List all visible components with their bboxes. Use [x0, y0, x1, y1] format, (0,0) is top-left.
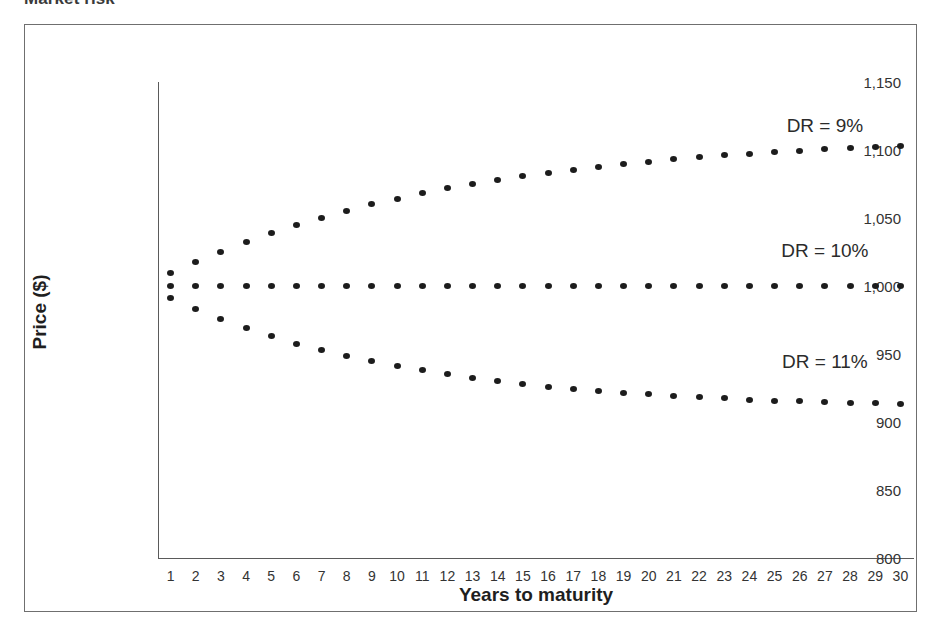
data-point — [721, 283, 728, 289]
data-point — [519, 381, 526, 387]
x-tick-label: 24 — [742, 568, 758, 584]
y-axis-title: Price ($) — [29, 275, 51, 350]
data-point — [696, 394, 703, 400]
x-tick-label: 7 — [318, 568, 326, 584]
data-point — [847, 400, 854, 406]
data-point — [897, 143, 904, 149]
y-tick-label: 900 — [876, 414, 901, 431]
data-point — [318, 283, 325, 289]
x-tick-label: 28 — [842, 568, 858, 584]
data-point — [620, 283, 627, 289]
x-tick-label: 19 — [616, 568, 632, 584]
data-point — [494, 283, 501, 289]
data-point — [519, 283, 526, 289]
data-point — [444, 283, 451, 289]
x-tick-label: 6 — [293, 568, 301, 584]
x-tick-label: 27 — [817, 568, 833, 584]
y-tick-label: 850 — [876, 482, 901, 499]
data-point — [243, 325, 250, 331]
x-tick-label: 29 — [867, 568, 883, 584]
data-point — [368, 283, 375, 289]
data-point — [821, 399, 828, 405]
data-point — [394, 196, 401, 202]
data-point — [796, 148, 803, 154]
y-tick-label: 950 — [876, 346, 901, 363]
data-point — [545, 170, 552, 176]
x-tick-label: 21 — [666, 568, 682, 584]
y-tick-label: 800 — [876, 550, 901, 567]
x-tick-label: 13 — [465, 568, 481, 584]
y-tick-label: 1,100 — [863, 142, 901, 159]
data-point — [570, 386, 577, 392]
data-point — [318, 215, 325, 221]
series-label: DR = 10% — [781, 240, 868, 262]
x-tick-label: 3 — [217, 568, 225, 584]
data-point — [545, 283, 552, 289]
data-point — [343, 208, 350, 214]
data-point — [670, 283, 677, 289]
data-point — [192, 259, 199, 265]
page-title: Market risk — [24, 0, 115, 9]
data-point — [419, 283, 426, 289]
data-point — [771, 398, 778, 404]
data-point — [595, 164, 602, 170]
data-point — [192, 306, 199, 312]
x-tick-label: 5 — [267, 568, 275, 584]
data-point — [167, 283, 174, 289]
data-point — [696, 154, 703, 160]
data-point — [494, 378, 501, 384]
data-point — [293, 222, 300, 228]
data-point — [670, 156, 677, 162]
data-point — [217, 283, 224, 289]
data-point — [469, 283, 476, 289]
data-point — [620, 161, 627, 167]
data-point — [444, 185, 451, 191]
x-tick-label: 15 — [515, 568, 531, 584]
data-point — [419, 190, 426, 196]
data-point — [771, 149, 778, 155]
x-tick-label: 26 — [792, 568, 808, 584]
plot-area: 8008509009501,0001,0501,1001,150 1234567… — [158, 82, 913, 558]
data-point — [268, 283, 275, 289]
data-point — [746, 151, 753, 157]
x-tick-label: 2 — [192, 568, 200, 584]
data-point — [897, 401, 904, 407]
data-point — [293, 341, 300, 347]
data-point — [268, 333, 275, 339]
data-point — [394, 363, 401, 369]
data-point — [847, 283, 854, 289]
data-point — [872, 144, 879, 150]
data-point — [595, 283, 602, 289]
data-point — [243, 239, 250, 245]
data-point — [243, 283, 250, 289]
data-point — [494, 177, 501, 183]
data-point — [872, 283, 879, 289]
data-point — [343, 283, 350, 289]
x-tick-label: 11 — [415, 568, 430, 584]
data-point — [746, 283, 753, 289]
data-point — [872, 400, 879, 406]
data-point — [721, 395, 728, 401]
data-point — [519, 173, 526, 179]
data-point — [167, 295, 174, 301]
data-point — [721, 152, 728, 158]
x-tick-label: 23 — [716, 568, 732, 584]
data-point — [343, 353, 350, 359]
x-tick-label: 20 — [641, 568, 657, 584]
x-tick-label: 30 — [893, 568, 909, 584]
data-point — [570, 167, 577, 173]
y-tick-label: 1,000 — [863, 278, 901, 295]
data-point — [167, 270, 174, 276]
x-tick-label: 17 — [565, 568, 581, 584]
x-tick-label: 12 — [440, 568, 456, 584]
data-point — [796, 398, 803, 404]
x-tick-label: 1 — [167, 568, 175, 584]
data-point — [444, 371, 451, 377]
data-point — [217, 249, 224, 255]
x-tick-label: 22 — [691, 568, 707, 584]
x-tick-label: 18 — [591, 568, 607, 584]
data-point — [570, 283, 577, 289]
data-point — [771, 283, 778, 289]
figure-frame: 8008509009501,0001,0501,1001,150 1234567… — [24, 24, 917, 612]
data-point — [217, 316, 224, 322]
